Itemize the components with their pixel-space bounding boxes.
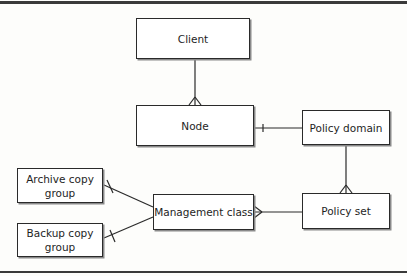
crows-foot-icon <box>340 185 346 193</box>
one-bar-icon <box>110 230 115 242</box>
entity-policy-domain: Policy domain <box>302 110 390 145</box>
entity-label: Policy domain <box>310 121 383 135</box>
entity-label: Node <box>181 119 208 133</box>
entity-label: Archive copy group <box>24 172 96 200</box>
mgmtclass-archive-connector <box>104 180 153 207</box>
entity-backup-copy-group: Backup copy group <box>17 223 103 257</box>
mgmtclass-backup-connector <box>104 217 153 242</box>
client-node-connector <box>189 59 201 105</box>
node-policydomain-connector <box>254 124 302 132</box>
entity-archive-copy-group: Archive copy group <box>17 168 103 203</box>
policyset-mgmtclass-connector <box>254 206 302 218</box>
entity-client: Client <box>136 18 250 59</box>
policydomain-policyset-connector <box>340 145 352 193</box>
entity-node: Node <box>136 105 254 146</box>
crows-foot-icon <box>189 97 195 105</box>
entity-policy-set: Policy set <box>302 193 390 229</box>
entity-label: Client <box>178 32 208 46</box>
entity-label: Backup copy group <box>24 226 96 254</box>
entity-label: Policy set <box>321 204 371 218</box>
entity-management-class: Management class <box>153 194 254 230</box>
crows-foot-icon <box>254 206 262 212</box>
entity-label: Management class <box>154 205 253 219</box>
